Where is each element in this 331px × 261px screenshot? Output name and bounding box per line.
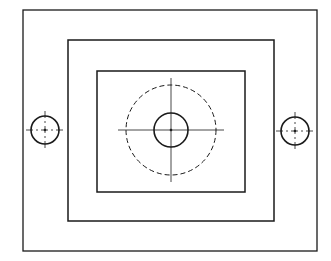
center-point [170,129,172,131]
right-center-point [294,130,296,132]
technical-drawing [0,0,331,261]
left-center-point [44,129,46,131]
